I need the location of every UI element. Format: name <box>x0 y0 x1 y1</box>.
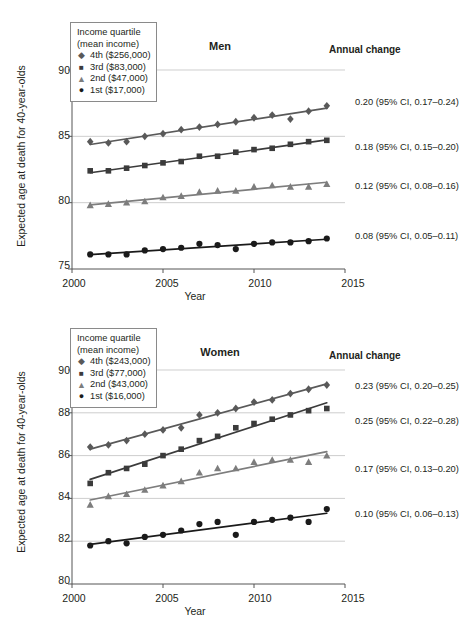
legend-label: 3rd ($83,000) <box>90 62 146 74</box>
plot-area-men: Expected age at death for 40-year-olds M… <box>0 0 452 306</box>
legend-label: 4th ($243,000) <box>90 356 150 368</box>
diamond-marker-icon: ◆ <box>77 51 86 60</box>
legend-title-line2: (mean income) <box>77 39 150 51</box>
legend-title-line1: Income quartile <box>77 27 150 39</box>
legend-item-2nd: ▲ 2nd ($43,000) <box>77 379 150 391</box>
triangle-marker-icon: ▲ <box>77 75 86 84</box>
diamond-marker-icon: ◆ <box>77 357 86 366</box>
chart-panel-women: Expected age at death for 40-year-olds W… <box>0 306 452 613</box>
legend-item-2nd: ▲ 2nd ($47,000) <box>77 73 150 85</box>
legend-item-3rd: ■ 3rd ($83,000) <box>77 62 150 74</box>
legend-women: Income quartile (mean income) ◆ 4th ($24… <box>70 328 157 408</box>
legend-label: 3rd ($77,000) <box>90 368 146 380</box>
legend-item-3rd: ■ 3rd ($77,000) <box>77 368 150 380</box>
legend-label: 2nd ($47,000) <box>90 73 148 85</box>
triangle-marker-icon: ▲ <box>77 381 86 390</box>
legend-item-4th: ◆ 4th ($243,000) <box>77 356 150 368</box>
chart-panel-men: Expected age at death for 40-year-olds M… <box>0 0 452 306</box>
legend-label: 1st ($16,000) <box>90 391 145 403</box>
legend-men: Income quartile (mean income) ◆ 4th ($25… <box>70 22 157 102</box>
chart-svg-women <box>0 306 452 613</box>
square-marker-icon: ■ <box>77 369 86 378</box>
legend-label: 4th ($256,000) <box>90 50 150 62</box>
circle-marker-icon: ● <box>77 392 86 401</box>
legend-item-1st: ● 1st ($17,000) <box>77 85 150 97</box>
legend-title-line2: (mean income) <box>77 345 150 357</box>
circle-marker-icon: ● <box>77 86 86 95</box>
legend-item-1st: ● 1st ($16,000) <box>77 391 150 403</box>
legend-label: 1st ($17,000) <box>90 85 145 97</box>
legend-item-4th: ◆ 4th ($256,000) <box>77 50 150 62</box>
square-marker-icon: ■ <box>77 63 86 72</box>
legend-label: 2nd ($43,000) <box>90 379 148 391</box>
legend-title-line1: Income quartile <box>77 333 150 345</box>
plot-area-women: Expected age at death for 40-year-olds W… <box>0 306 452 613</box>
chart-svg-men <box>0 0 452 306</box>
